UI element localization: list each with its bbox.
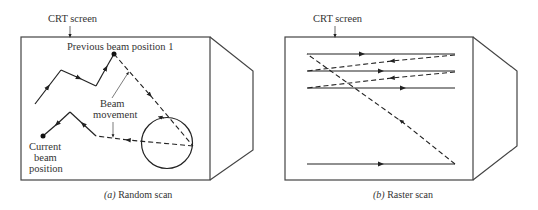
caption-a: (a) Random scan	[104, 189, 172, 201]
movement-label: movement	[93, 109, 137, 120]
scan-diagram: CRT screen Previous beam position 1	[0, 0, 538, 210]
crt-tube-b	[285, 37, 517, 180]
random-scan-panel: CRT screen Previous beam position 1	[21, 13, 253, 201]
crt-label-b: CRT screen	[313, 13, 363, 24]
previous-position-label: Previous beam position 1	[67, 41, 173, 52]
upper-beam-path	[35, 54, 114, 104]
beam-pointer-upper	[112, 73, 128, 98]
raster-scan-panel: CRT screen (b) Raster scan	[285, 13, 517, 201]
caption-b: (b) Raster scan	[373, 189, 433, 201]
lower-beam-path	[43, 112, 96, 136]
current-beam-dot	[41, 134, 46, 139]
drawn-circle	[142, 118, 193, 169]
current-label-2: beam	[34, 152, 57, 163]
current-label-3: position	[29, 163, 64, 174]
beam-label: Beam	[100, 98, 125, 109]
current-label-1: Current	[29, 141, 61, 152]
crt-label-a: CRT screen	[48, 13, 98, 24]
